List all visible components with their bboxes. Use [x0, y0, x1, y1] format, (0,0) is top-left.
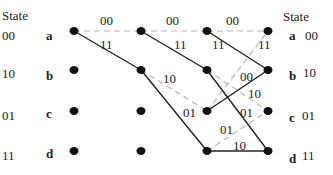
left-state-letter: d [46, 146, 54, 161]
right-state-code: 11 [302, 148, 315, 163]
left-state-code: 10 [2, 66, 15, 81]
left-state-header: State [2, 8, 28, 23]
right-state-code: 01 [302, 108, 315, 123]
right-state-labels: a 00 b 10 c 01 d 11 [289, 28, 318, 166]
state-node [264, 66, 273, 74]
trellis-diagram: State State 00 a 10 b 01 c 11 d a 00 b 1… [0, 0, 333, 175]
left-state-labels: 00 a 10 b 01 c 11 d [2, 28, 54, 163]
left-state-code: 01 [2, 108, 15, 123]
right-state-letter: b [289, 68, 296, 83]
edge-output-label: 01 [220, 122, 233, 137]
state-node [203, 147, 212, 155]
right-state-header: State [283, 9, 309, 24]
right-state-letter: c [289, 110, 295, 125]
state-node [264, 107, 273, 115]
left-state-letter: c [46, 106, 52, 121]
edge-output-label: 01 [183, 105, 196, 120]
edge-output-label: 10 [248, 86, 261, 101]
state-node [70, 147, 79, 155]
state-node [264, 147, 273, 155]
state-node [264, 27, 273, 35]
right-state-code: 00 [305, 28, 318, 43]
edge-output-label: 11 [258, 37, 271, 52]
right-state-letter: a [289, 28, 296, 43]
state-node [70, 27, 79, 35]
state-node [137, 27, 146, 35]
trellis-edge-labels: 0011001110010011100111000110 [100, 13, 271, 153]
state-node [203, 66, 212, 74]
state-node [137, 66, 146, 74]
state-node [137, 107, 146, 115]
state-node [203, 107, 212, 115]
edge-output-label: 10 [233, 138, 246, 153]
left-state-code: 00 [2, 28, 15, 43]
edge-output-label: 01 [240, 105, 253, 120]
edge-output-label: 00 [166, 13, 179, 28]
edge-output-label: 00 [100, 13, 113, 28]
left-state-letter: b [46, 68, 53, 83]
left-state-code: 11 [2, 148, 15, 163]
state-node [70, 107, 79, 115]
state-node [203, 27, 212, 35]
edge-output-label: 11 [174, 37, 187, 52]
edge-output-label: 00 [240, 69, 253, 84]
state-node [137, 147, 146, 155]
edge-output-label: 11 [212, 37, 225, 52]
right-state-code: 10 [303, 65, 316, 80]
state-node [70, 66, 79, 74]
edge-output-label: 10 [163, 71, 176, 86]
edge-output-label: 11 [100, 37, 113, 52]
left-state-letter: a [46, 28, 53, 43]
edge-output-label: 00 [226, 13, 239, 28]
right-state-letter: d [289, 151, 297, 166]
